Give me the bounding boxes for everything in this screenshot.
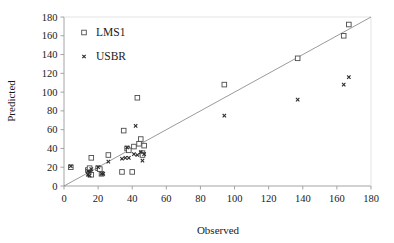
data-point-marker — [138, 137, 143, 142]
data-point-marker — [341, 33, 346, 38]
y-tick-label: 120 — [42, 68, 58, 79]
y-tick-label: 0 — [52, 181, 57, 192]
data-point-marker — [135, 95, 140, 100]
x-tick-label: 140 — [295, 193, 311, 204]
x-tick-label: 20 — [93, 193, 104, 204]
legend-label-usbr: USBR — [96, 50, 126, 62]
data-point-marker — [142, 143, 147, 148]
x-tick-label: 0 — [61, 193, 66, 204]
chart-canvas: 020406080100120140160180 020406080100120… — [0, 0, 394, 243]
data-point-marker — [120, 170, 125, 175]
data-point-marker — [82, 30, 87, 35]
y-tick-label: 160 — [42, 30, 58, 41]
x-tick-label: 80 — [195, 193, 206, 204]
x-tick-label: 100 — [227, 193, 243, 204]
y-tick-label: 20 — [47, 162, 58, 173]
data-point-marker — [222, 82, 227, 87]
x-tick-label: 120 — [261, 193, 277, 204]
data-point-marker — [121, 128, 126, 133]
y-tick-label: 140 — [42, 49, 58, 60]
x-tick-label: 160 — [329, 193, 345, 204]
scatter-chart-figure: 020406080100120140160180 020406080100120… — [0, 0, 394, 243]
y-axis-title: Predicted — [5, 80, 17, 122]
x-tick-label: 180 — [363, 193, 379, 204]
y-tick-label: 40 — [47, 143, 58, 154]
y-tick-label: 80 — [47, 105, 58, 116]
data-point-marker — [295, 56, 300, 61]
data-point-marker — [89, 156, 94, 161]
data-point-marker — [130, 170, 135, 175]
data-point-marker — [347, 22, 352, 27]
x-tick-label: 40 — [127, 193, 138, 204]
data-point-marker — [132, 144, 137, 149]
data-point-marker — [137, 141, 142, 146]
x-tick-label: 60 — [161, 193, 172, 204]
x-axis-title: Observed — [197, 224, 240, 236]
legend-label-lms1: LMS1 — [96, 26, 126, 38]
y-tick-label: 60 — [47, 124, 58, 135]
data-point-marker — [106, 153, 111, 158]
y-tick-label: 100 — [42, 87, 58, 98]
y-tick-label: 180 — [42, 12, 58, 23]
